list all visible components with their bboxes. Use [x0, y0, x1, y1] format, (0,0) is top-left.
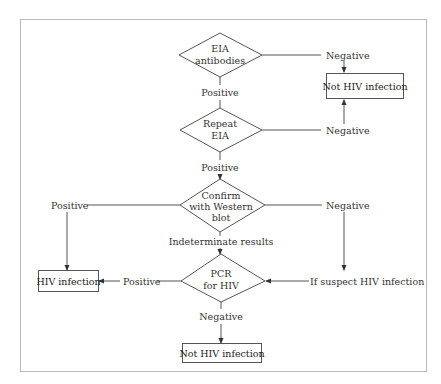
node-repeat-line2: EIA	[211, 130, 229, 141]
node-eia-line2: antibodies	[195, 55, 245, 66]
node-hiv-infection: HIV infection	[36, 271, 100, 292]
node-pcr-line2: for HIV	[203, 280, 239, 291]
node-repeat-eia: Repeat EIA	[180, 108, 262, 152]
node-hiv-infection-label: HIV infection	[36, 276, 100, 287]
node-not-hiv-top-label: Not HIV infection	[322, 81, 407, 92]
node-confirm-line2: with Western	[189, 201, 253, 212]
edge-label-pcr-positive: Positive	[123, 276, 161, 287]
node-repeat-line1: Repeat	[203, 118, 237, 129]
node-confirm-line1: Confirm	[202, 190, 241, 201]
flowchart-canvas: EIA antibodies Negative Not HIV infectio…	[0, 0, 441, 384]
node-pcr-for-hiv: PCR for HIV	[181, 254, 265, 302]
edge-label-pcr-negative: Negative	[199, 311, 243, 322]
node-confirm-western-blot: Confirm with Western blot	[180, 179, 265, 232]
edge-label-eia-positive: Positive	[201, 87, 239, 98]
edge-label-confirm-negative: Negative	[326, 200, 370, 211]
edge-label-repeat-positive: Positive	[201, 162, 239, 173]
node-eia-antibodies: EIA antibodies	[179, 33, 262, 77]
node-eia-line1: EIA	[211, 43, 229, 54]
node-not-hiv-infection-bottom: Not HIV infection	[179, 344, 264, 363]
edge-label-repeat-negative: Negative	[326, 125, 370, 136]
edge-label-eia-negative: Negative	[326, 50, 370, 61]
node-not-hiv-bottom-label: Not HIV infection	[179, 348, 264, 359]
edge-label-if-suspect: If suspect HIV infection	[310, 276, 424, 287]
node-confirm-line3: blot	[212, 212, 231, 223]
node-pcr-line1: PCR	[211, 268, 233, 279]
node-not-hiv-infection-top: Not HIV infection	[322, 74, 407, 99]
edge-label-indeterminate: Indeterminate results	[169, 236, 274, 247]
edge-label-confirm-positive: Positive	[51, 200, 89, 211]
